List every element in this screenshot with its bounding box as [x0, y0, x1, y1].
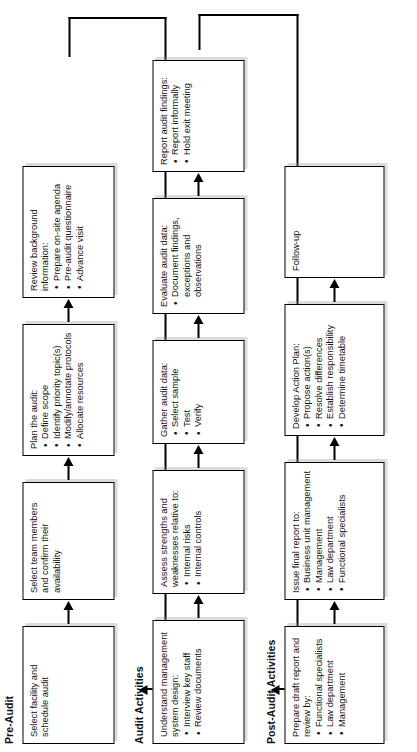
node-develop-action-plan[interactable]: Develop Action Plan: Propose action(s) R… — [284, 304, 384, 436]
arrow-right-icon — [328, 600, 340, 626]
node-bullet-list: Interview key staff Review documents — [181, 627, 204, 737]
node-understand-system[interactable]: Understand management system design: Int… — [152, 620, 244, 744]
list-item: Establish responsibility — [324, 311, 335, 419]
node-heading: Understand management system design: — [158, 627, 181, 737]
node-heading: Issue final report to: — [290, 469, 301, 593]
node-heading: Evaluate audit data: — [158, 205, 169, 307]
list-item: Hold exit meeting — [181, 67, 192, 155]
node-bullet-list: Select sample Test Verify — [169, 347, 203, 437]
arrow-right-icon — [192, 172, 204, 198]
arrow-right-icon — [328, 278, 340, 304]
band-audit-activities: Audit Activities Understand management s… — [130, 0, 254, 752]
list-item: Management — [336, 633, 347, 727]
arrow-right-icon — [192, 314, 204, 340]
node-assess-strengths[interactable]: Assess strengths and weaknesses relative… — [152, 470, 244, 594]
connector-audit-to-post-h1 — [198, 14, 200, 50]
flowchart-canvas: Pre-Audit Select facility and schedule a… — [0, 0, 417, 752]
list-item: Report informally — [169, 67, 180, 155]
node-heading: Assess strengths and weaknesses relative… — [158, 477, 181, 587]
row-audit-activities: Understand management system design: Int… — [152, 60, 244, 744]
list-item: Advance visit — [74, 173, 85, 281]
row-post-audit: Prepare draft report and review by: Func… — [284, 166, 384, 744]
node-bullet-list: Internal risks Internal controls — [181, 477, 204, 587]
node-report-findings[interactable]: Report audit findings: Report informally… — [152, 60, 244, 172]
node-heading: Report audit findings: — [158, 67, 169, 165]
node-gather-data[interactable]: Gather audit data: Select sample Test Ve… — [152, 340, 244, 444]
list-item: Interview key staff — [181, 627, 192, 727]
node-select-team[interactable]: Select team members and confirm their av… — [22, 482, 114, 600]
list-item: Define scope — [39, 331, 50, 439]
diagram-page: Pre-Audit Select facility and schedule a… — [0, 0, 417, 752]
arrow-right-icon — [62, 298, 74, 324]
node-heading: Select facility and schedule audit — [28, 633, 51, 737]
node-evaluate-data[interactable]: Evaluate audit data: Document findings, … — [152, 198, 244, 314]
node-bullet-list: Report informally Hold exit meeting — [169, 67, 192, 165]
list-item: Test — [181, 347, 192, 427]
list-item: Verify — [192, 347, 203, 427]
list-item: Internal risks — [181, 477, 192, 577]
band-title-post-audit: Post-Audit Activities — [264, 640, 276, 744]
node-follow-up[interactable]: Follow-up — [284, 166, 384, 278]
arrow-right-icon — [192, 444, 204, 470]
node-bullet-list: Prepare on-site agenda Pre-audit questio… — [51, 173, 85, 291]
list-item: Determine timetable — [336, 311, 347, 419]
node-issue-final-report[interactable]: Issue final report to: Business unit man… — [284, 462, 384, 600]
arrow-right-icon — [62, 456, 74, 482]
node-heading: Gather audit data: — [158, 347, 169, 437]
node-bullet-list: Define scope Identify priority topic(s) … — [39, 331, 85, 449]
list-item: Identify priority topic(s) — [51, 331, 62, 439]
band-pre-audit: Pre-Audit Select facility and schedule a… — [0, 0, 124, 752]
list-item: Select sample — [169, 347, 180, 427]
node-prepare-draft[interactable]: Prepare draft report and review by: Func… — [284, 626, 384, 744]
connector-pre-to-audit-h1 — [68, 17, 70, 57]
node-heading: Select team members and confirm their av… — [28, 489, 62, 593]
node-heading: Prepare draft report and review by: — [290, 633, 313, 737]
list-item: Prepare on-site agenda — [51, 173, 62, 281]
node-bullet-list: Document findings, exceptions and observ… — [169, 205, 203, 307]
node-bullet-list: Functional specialists Law department Ma… — [313, 633, 347, 737]
node-heading: Develop Action Plan: — [290, 311, 301, 429]
arrow-right-icon — [192, 594, 204, 620]
node-heading: Plan the audit: — [28, 331, 39, 449]
list-item: Internal controls — [192, 477, 203, 577]
node-bullet-list: Propose action(s) Resolve differences Es… — [301, 311, 347, 429]
list-item: Management — [313, 469, 324, 583]
node-heading: Review background information: — [28, 173, 51, 291]
list-item: Law department — [324, 469, 335, 583]
arrow-right-icon — [328, 436, 340, 462]
list-item: Law department — [324, 633, 335, 727]
list-item: Business unit management — [301, 469, 312, 583]
band-title-pre-audit: Pre-Audit — [2, 696, 14, 744]
band-title-audit-activities: Audit Activities — [132, 666, 144, 744]
list-item: Functional specialists — [313, 633, 324, 727]
band-post-audit: Post-Audit Activities Prepare draft repo… — [262, 0, 402, 752]
node-plan-audit[interactable]: Plan the audit: Define scope Identify pr… — [22, 324, 114, 456]
list-item: Modify/annotate protocols — [62, 331, 73, 439]
list-item: Review documents — [192, 627, 203, 727]
arrow-right-icon — [62, 600, 74, 626]
list-item: Document findings, exceptions and observ… — [169, 205, 203, 297]
node-select-facility[interactable]: Select facility and schedule audit — [22, 626, 114, 744]
node-bullet-list: Business unit management Management Law … — [301, 469, 347, 593]
list-item: Allocate resources — [74, 331, 85, 439]
list-item: Propose action(s) — [301, 311, 312, 419]
list-item: Pre-audit questionnaire — [62, 173, 73, 281]
node-heading: Follow-up — [290, 173, 301, 271]
list-item: Resolve differences — [313, 311, 324, 419]
list-item: Functional specialists — [336, 469, 347, 583]
row-pre-audit: Select facility and schedule audit Selec… — [22, 166, 114, 744]
node-review-background[interactable]: Review background information: Prepare o… — [22, 166, 114, 298]
